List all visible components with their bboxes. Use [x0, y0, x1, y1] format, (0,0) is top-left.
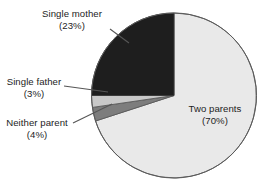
pie-label-single-mother-name: Single mother	[42, 8, 102, 19]
pie-label-single-father-name: Single father	[7, 76, 62, 87]
pie-label-two-parents-name: Two parents	[189, 103, 242, 114]
pie-label-single-father: Single father (3%)	[4, 76, 64, 99]
pie-label-single-mother-percent: (23%)	[30, 20, 114, 32]
pie-label-two-parents-percent: (70%)	[179, 115, 251, 127]
pie-label-single-mother: Single mother (23%)	[30, 8, 114, 31]
pie-label-neither-parent-percent: (4%)	[1, 129, 73, 141]
pie-label-neither-parent: Neither parent (4%)	[1, 117, 73, 140]
pie-label-neither-parent-name: Neither parent	[6, 117, 68, 128]
pie-label-single-father-percent: (3%)	[4, 88, 64, 100]
pie-label-two-parents: Two parents (70%)	[179, 103, 251, 126]
pie-chart-figure: Single mother (23%) Single father (3%) N…	[0, 0, 262, 191]
